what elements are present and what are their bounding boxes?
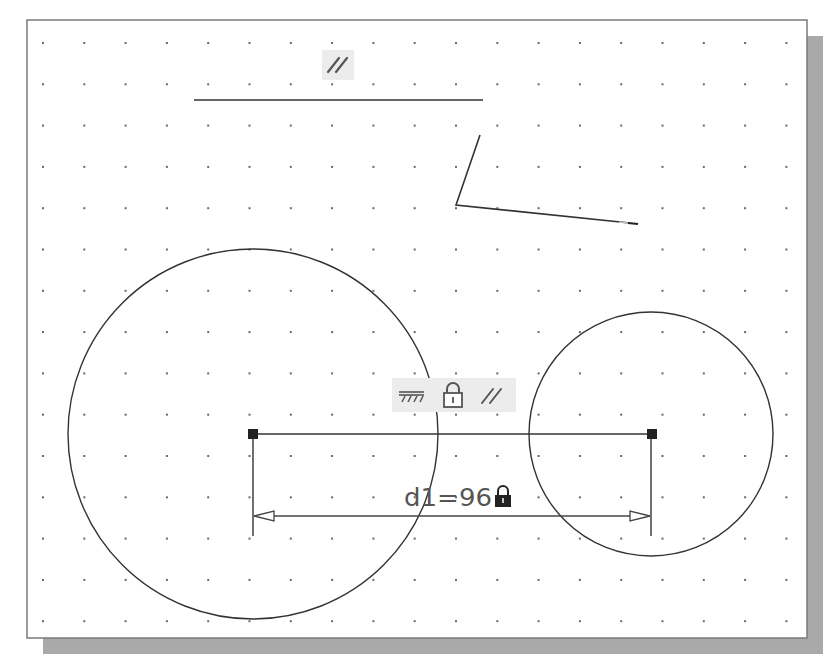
grid-dot <box>372 496 374 498</box>
grid-dot <box>42 620 44 622</box>
grid-dot <box>331 455 333 457</box>
grid-dot <box>620 83 622 85</box>
grid-dot <box>249 372 251 374</box>
grid-dot <box>372 125 374 127</box>
grid-dot <box>166 42 168 44</box>
grid-dot <box>620 496 622 498</box>
grid-dot <box>166 455 168 457</box>
grid-dot <box>455 83 457 85</box>
grid-dot <box>744 496 746 498</box>
grid-dot <box>662 207 664 209</box>
grid-dot <box>579 125 581 127</box>
grid-dot <box>42 579 44 581</box>
grid-dot <box>579 290 581 292</box>
grid-dot <box>538 42 540 44</box>
grid-dot <box>207 249 209 251</box>
grid-dot <box>125 249 127 251</box>
grid-dot <box>703 331 705 333</box>
grid-dot <box>579 331 581 333</box>
grid-dot <box>249 538 251 540</box>
grid-dot <box>125 496 127 498</box>
grid-dot <box>125 331 127 333</box>
grid-dot <box>207 579 209 581</box>
grid-dot <box>703 125 705 127</box>
grid-dot <box>455 249 457 251</box>
grid-dot <box>538 496 540 498</box>
grid-dot <box>125 620 127 622</box>
grid-dot <box>662 83 664 85</box>
grid-dot <box>662 125 664 127</box>
grid-dot <box>249 331 251 333</box>
grid-dot <box>414 166 416 168</box>
grid-dot <box>42 207 44 209</box>
grid-dot <box>703 42 705 44</box>
grid-dot <box>496 579 498 581</box>
grid-dot <box>744 42 746 44</box>
grid-dot <box>703 249 705 251</box>
grid-dot <box>579 414 581 416</box>
grid-dot <box>42 372 44 374</box>
grid-dot <box>42 455 44 457</box>
grid-dot <box>703 538 705 540</box>
grid-dot <box>290 414 292 416</box>
grid-dot <box>785 166 787 168</box>
grid-dot <box>166 83 168 85</box>
sketch-svg[interactable]: d1=96 <box>0 0 835 667</box>
grid-dot <box>785 207 787 209</box>
grid-dot <box>455 579 457 581</box>
grid-dot <box>538 83 540 85</box>
grid-dot <box>620 207 622 209</box>
grid-dot <box>496 125 498 127</box>
grid-dot <box>249 414 251 416</box>
grid-dot <box>290 331 292 333</box>
grid-dot <box>414 331 416 333</box>
grid-dot <box>207 42 209 44</box>
grid-dot <box>331 331 333 333</box>
grid-dot <box>455 166 457 168</box>
grid-dot <box>166 538 168 540</box>
grid-dot <box>579 538 581 540</box>
grid-dot <box>207 538 209 540</box>
grid-dot <box>785 538 787 540</box>
center-point-left[interactable] <box>248 429 258 439</box>
grid-dot <box>166 372 168 374</box>
center-point-right[interactable] <box>647 429 657 439</box>
grid-dot <box>372 579 374 581</box>
grid-dot <box>290 579 292 581</box>
grid-dot <box>455 42 457 44</box>
sketch-canvas[interactable]: d1=96 <box>0 0 835 667</box>
grid-dot <box>496 290 498 292</box>
grid-dot <box>249 496 251 498</box>
grid-dot <box>207 125 209 127</box>
grid-dot <box>207 331 209 333</box>
grid-dot <box>42 42 44 44</box>
grid-dot <box>579 166 581 168</box>
grid-dot <box>744 290 746 292</box>
grid-dot <box>207 496 209 498</box>
grid-dot <box>785 83 787 85</box>
grid-dot <box>83 125 85 127</box>
grid-dot <box>579 579 581 581</box>
grid-dot <box>372 538 374 540</box>
grid-dot <box>249 620 251 622</box>
grid-dot <box>42 290 44 292</box>
dimension-label[interactable]: d1=96 <box>404 484 492 512</box>
grid-dot <box>744 538 746 540</box>
grid-dot <box>744 166 746 168</box>
grid-dot <box>42 83 44 85</box>
grid-dot <box>125 455 127 457</box>
grid-dot <box>496 249 498 251</box>
grid-dot <box>662 290 664 292</box>
grid-dot <box>455 455 457 457</box>
grid-dot <box>785 331 787 333</box>
grid-dot <box>331 620 333 622</box>
grid-dot <box>414 42 416 44</box>
grid-dot <box>125 579 127 581</box>
grid-dot <box>620 538 622 540</box>
grid-dot <box>166 414 168 416</box>
grid-dot <box>331 42 333 44</box>
grid-dot <box>785 455 787 457</box>
grid-dot <box>83 372 85 374</box>
grid-dot <box>331 496 333 498</box>
grid-dot <box>703 372 705 374</box>
